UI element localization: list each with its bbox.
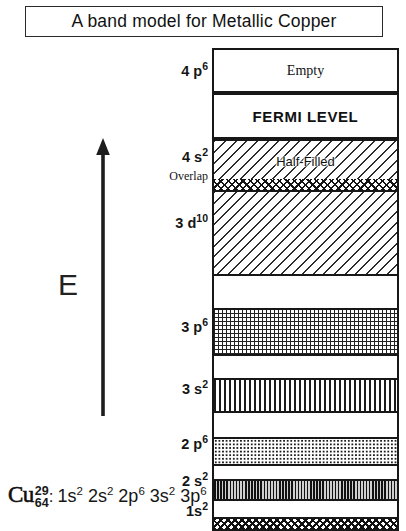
band-fill-cross-hatch — [214, 179, 397, 190]
band-fill-empty — [214, 356, 397, 378]
band-gap-3 — [212, 411, 399, 439]
band-fill-vertical-dense — [214, 481, 397, 499]
band-4s2-text: Half-Filled — [276, 154, 335, 169]
config-term-2s: 2s2 — [88, 486, 113, 506]
band-label-stack: 4 p6 4 s2 Overlap 3 d10 3 p6 3 s2 2 p6 2… — [110, 48, 208, 468]
band-label-4s2: 4 s2 — [182, 146, 208, 165]
caption-separator: : — [49, 487, 54, 506]
band-fill-empty — [214, 413, 397, 437]
band-label-2p6: 2 p6 — [181, 433, 208, 452]
element-numbers: 2964 — [35, 485, 49, 510]
config-term-1s: 1s2 — [57, 486, 82, 506]
band-fill-zigzag — [214, 519, 397, 529]
band-3p6 — [212, 308, 399, 356]
band-gap-4 — [212, 464, 399, 481]
band-3s2 — [212, 378, 399, 413]
mass-number: 64 — [35, 497, 49, 510]
band-4s2: Half-Filled — [212, 139, 399, 183]
energy-axis-arrow — [95, 138, 111, 416]
band-4p6: Empty — [212, 48, 399, 93]
band-diagram: Empty FERMI LEVEL Half-Filled — [212, 48, 399, 468]
config-term-3s: 3s2 — [150, 486, 175, 506]
band-gap-5 — [212, 499, 399, 519]
band-3d10 — [212, 190, 399, 276]
band-gap-1 — [212, 274, 399, 310]
fermi-level-text: FERMI LEVEL — [253, 108, 359, 125]
band-fill-empty — [214, 276, 397, 308]
config-term-3p: 3p6 — [180, 486, 206, 506]
band-overlap — [212, 177, 399, 192]
energy-axis-label: E — [58, 268, 78, 302]
band-2p6 — [212, 437, 399, 466]
band-fermi-level: FERMI LEVEL — [212, 93, 399, 139]
config-exponent-2p: 6 — [138, 485, 144, 497]
config-exponent-3p: 6 — [200, 485, 206, 497]
band-label-3s2: 3 s2 — [182, 378, 208, 397]
band-fill-diagonal-hatch — [214, 192, 397, 274]
band-fill-vertical-lines — [214, 380, 397, 411]
config-exponent-2s: 2 — [107, 485, 113, 497]
band-1s2 — [212, 517, 399, 531]
band-label-3p6: 3 p6 — [181, 316, 208, 335]
config-exponent-1s: 2 — [77, 485, 83, 497]
band-fill-empty — [214, 466, 397, 479]
config-term-2p: 2p6 — [118, 486, 144, 506]
config-exponent-3s: 2 — [169, 485, 175, 497]
band-fill-dots — [214, 439, 397, 464]
band-label-4p6: 4 p6 — [181, 60, 208, 79]
element-symbol: Cu — [8, 482, 34, 507]
band-label-overlap: Overlap — [169, 169, 208, 184]
band-4p6-text: Empty — [287, 63, 324, 79]
band-gap-2 — [212, 354, 399, 380]
title-box: A band model for Metallic Copper — [25, 6, 383, 37]
band-fill-grid — [214, 310, 397, 354]
band-fill-empty — [214, 501, 397, 517]
band-2s2 — [212, 479, 399, 501]
up-arrow-icon — [95, 138, 111, 416]
band-label-3d10: 3 d10 — [175, 212, 208, 231]
page-title: A band model for Metallic Copper — [71, 11, 336, 32]
